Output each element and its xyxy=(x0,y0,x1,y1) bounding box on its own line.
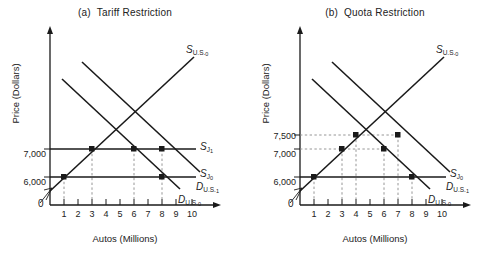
panel-b-label-supply-japan-0: SJ0 xyxy=(450,168,463,179)
panel-a-label-demand-us-1: DU.S.1 xyxy=(196,181,219,192)
panel-a-marker-3-7000 xyxy=(89,146,95,152)
panel-b-curve-demand-us-0 xyxy=(312,79,430,189)
panel-b-x-axis-arrow xyxy=(463,202,471,208)
panel-b-x-ticks xyxy=(314,199,442,205)
panel-tariff-restriction: (a)Tariff Restriction Price (Dollars) Au… xyxy=(0,0,250,262)
panel-b-marker-1-6000 xyxy=(311,174,317,180)
panel-a-curve-demand-us-0 xyxy=(62,79,180,189)
panel-b-marker-8-6000 xyxy=(409,174,415,180)
panel-a-marker-6-7000 xyxy=(131,146,137,152)
panel-b-plot xyxy=(250,0,500,262)
panel-a-plot xyxy=(0,0,250,262)
panel-a-label-demand-us-0: DU.S.0 xyxy=(178,194,201,205)
panel-b-curve-supply-us-0 xyxy=(300,57,444,191)
panel-a-x-ticks xyxy=(64,199,192,205)
panel-a-x-axis-arrow xyxy=(213,202,221,208)
panel-b-y-axis-arrow xyxy=(297,26,303,34)
panel-a-markers xyxy=(61,146,165,180)
panel-a-label-supply-japan-1: SJ1 xyxy=(200,141,213,152)
panel-b-drop-lines xyxy=(314,135,412,205)
panel-b-marker-7-7500 xyxy=(395,132,401,138)
panel-a-label-supply-us-0: SU.S.0 xyxy=(186,44,208,55)
panel-a-curve-demand-us-1 xyxy=(82,62,200,172)
panel-b-marker-6-7000 xyxy=(381,146,387,152)
panel-b-label-supply-us-0: SU.S.0 xyxy=(436,44,458,55)
panel-b-marker-4-7500 xyxy=(353,132,359,138)
panel-a-label-supply-japan-0: SJ0 xyxy=(200,168,213,179)
panel-b-y-ticks xyxy=(294,135,300,177)
panel-a-y-ticks xyxy=(44,149,50,177)
panel-a-marker-8-7000 xyxy=(159,146,165,152)
panel-a-marker-1-6000 xyxy=(61,174,67,180)
panel-a-y-axis-arrow xyxy=(47,26,53,34)
panel-a-curve-supply-us-0 xyxy=(50,57,194,191)
panel-b-label-demand-us-1: DU.S.1 xyxy=(446,181,469,192)
panel-quota-restriction: (b)Quota Restriction Price (Dollars) Aut… xyxy=(250,0,500,262)
panel-b-curve-demand-us-1 xyxy=(332,62,450,172)
economics-figure: (a)Tariff Restriction Price (Dollars) Au… xyxy=(0,0,500,262)
panel-a-marker-8-6000 xyxy=(159,174,165,180)
panel-b-marker-3-7000 xyxy=(339,146,345,152)
panel-b-label-demand-us-0: DU.S.0 xyxy=(428,194,451,205)
panel-b-markers xyxy=(311,132,415,180)
